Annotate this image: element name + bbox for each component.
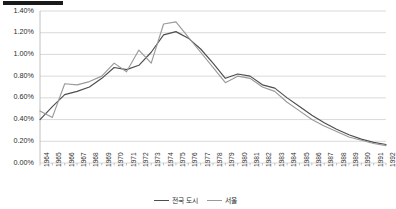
x-tick-label: 1966: [68, 152, 75, 167]
x-tick-label: 1982: [265, 152, 272, 167]
x-tick-label: 1978: [216, 152, 223, 167]
x-tick-label: 1973: [154, 152, 161, 167]
x-tick-label: 1979: [228, 152, 235, 167]
y-tick-label: 0.00%: [0, 159, 34, 167]
chart-legend: 전국 도시서울: [0, 195, 391, 205]
legend-line-swatch: [154, 200, 169, 201]
x-tick-label: 1974: [167, 152, 174, 167]
legend-label: 전국 도시: [172, 195, 198, 205]
y-tick-label: 0.60%: [0, 93, 34, 101]
series-line-1: [40, 22, 386, 146]
legend-label: 서울: [225, 195, 237, 205]
x-tick-label: 1969: [105, 152, 112, 167]
x-tick-label: 1967: [80, 152, 87, 167]
x-tick-label: 1971: [130, 152, 137, 167]
x-tick-label: 1968: [92, 152, 99, 167]
x-tick-label: 1992: [389, 152, 396, 167]
x-tick-label: 1988: [340, 152, 347, 167]
x-tick-label: 1980: [241, 152, 248, 167]
y-tick-label: 0.40%: [0, 115, 34, 123]
y-tick-label: 1.00%: [0, 50, 34, 58]
x-tick-label: 1981: [253, 152, 260, 167]
y-tick-label: 0.80%: [0, 72, 34, 80]
x-tick-label: 1972: [142, 152, 149, 167]
y-tick-label: 0.20%: [0, 137, 34, 145]
x-tick-label: 1976: [191, 152, 198, 167]
x-tick-label: 1985: [303, 152, 310, 167]
legend-line-swatch: [207, 200, 222, 201]
legend-entry[interactable]: 서울: [207, 195, 237, 205]
gridlines: [40, 11, 386, 163]
x-tick-label: 1977: [204, 152, 211, 167]
x-tick-label: 1965: [55, 152, 62, 167]
x-tick-label: 1975: [179, 152, 186, 167]
x-tick-label: 1984: [290, 152, 297, 167]
legend-entry[interactable]: 전국 도시: [154, 195, 198, 205]
x-tick-label: 1986: [315, 152, 322, 167]
y-tick-label: 1.20%: [0, 28, 34, 36]
x-tick-label: 1987: [327, 152, 334, 167]
x-tick-label: 1983: [278, 152, 285, 167]
x-tick-label: 1970: [117, 152, 124, 167]
series-line-0: [40, 32, 386, 145]
y-tick-label: 1.40%: [0, 7, 34, 15]
x-tick-label: 1964: [43, 152, 50, 167]
x-tick-label: 1989: [352, 152, 359, 167]
x-tick-label: 1990: [364, 152, 371, 167]
x-tick-label: 1991: [377, 152, 384, 167]
